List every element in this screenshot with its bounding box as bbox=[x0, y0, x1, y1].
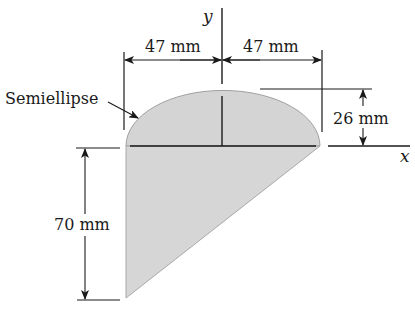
semiellipse-leader-arrow bbox=[108, 102, 138, 118]
cross-section-shape bbox=[126, 90, 320, 298]
semiellipse-region bbox=[126, 90, 320, 146]
dim-height-top-label: 26 mm bbox=[333, 109, 389, 128]
dim-left-width-label: 47 mm bbox=[145, 37, 201, 56]
y-axis-label: y bbox=[202, 6, 213, 26]
triangle-region bbox=[126, 146, 320, 298]
x-axis-label: x bbox=[400, 146, 410, 166]
semiellipse-label: Semiellipse bbox=[5, 89, 98, 108]
dim-right-width-label: 47 mm bbox=[243, 37, 299, 56]
dim-height-bottom-label: 70 mm bbox=[54, 215, 110, 234]
diagram-canvas: y x 47 mm 47 mm Semiellipse 26 mm 70 mm bbox=[0, 0, 415, 316]
